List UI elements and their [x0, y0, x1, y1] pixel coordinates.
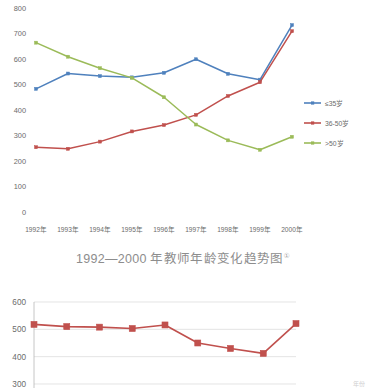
- corner-note-label: 年份: [353, 379, 365, 388]
- chart-caption: 1992—2000 年教师年龄变化趋势图①: [0, 248, 366, 267]
- y-axis-tick-labels: 8007006005004003002001000: [14, 4, 26, 217]
- legend-marker-1: [311, 121, 314, 124]
- x-tick-6: 1998年: [217, 225, 239, 234]
- chart-bottom-svg: 600500400300: [0, 292, 366, 388]
- y-tick-600: 600: [12, 298, 26, 307]
- legend-marker-2: [311, 141, 314, 144]
- data-point-0-0: [35, 87, 38, 90]
- y-tick-400: 400: [12, 353, 26, 362]
- data-point-2-5: [195, 123, 198, 126]
- data-point-0-2: [99, 75, 102, 78]
- data-point-0-0: [31, 321, 37, 327]
- x-tick-5: 1997年: [185, 225, 207, 234]
- y-tick-100: 100: [14, 182, 26, 191]
- data-point-0-6: [228, 345, 234, 351]
- x-tick-8: 2000年: [281, 225, 303, 234]
- chart-top-svg: 8007006005004003002001000 1992年1993年1994…: [0, 0, 366, 245]
- caption-text: 1992—2000 年教师年龄变化趋势图: [76, 252, 284, 266]
- y-tick-0: 0: [22, 208, 26, 217]
- data-point-0-5: [195, 340, 201, 346]
- data-point-0-5: [195, 58, 198, 61]
- y-axis-tick-labels: 600500400300: [12, 298, 26, 388]
- x-tick-1: 1993年: [57, 225, 79, 234]
- series-line-0: [36, 25, 292, 89]
- data-point-1-0: [35, 146, 38, 149]
- data-point-0-6: [227, 72, 230, 75]
- y-tick-500: 500: [12, 325, 26, 334]
- x-tick-4: 1996年: [153, 225, 175, 234]
- data-point-0-4: [163, 71, 166, 74]
- x-tick-0: 1992年: [25, 225, 47, 234]
- gridlines: [34, 302, 296, 388]
- data-point-2-6: [227, 139, 230, 142]
- y-tick-800: 800: [14, 4, 26, 13]
- data-point-1-2: [99, 140, 102, 143]
- legend-label-2: >50岁: [325, 139, 344, 148]
- data-point-2-7: [259, 148, 262, 151]
- data-point-2-3: [131, 76, 134, 79]
- data-point-0-4: [162, 322, 168, 328]
- series-line-1: [36, 31, 292, 149]
- x-axis-category-labels: 1992年1993年1994年1995年1996年1997年1998年1999年…: [25, 225, 303, 234]
- y-tick-600: 600: [14, 55, 26, 64]
- chart-series-group: [31, 321, 299, 357]
- y-tick-500: 500: [14, 80, 26, 89]
- data-point-1-8: [291, 30, 294, 33]
- data-point-1-3: [131, 130, 134, 133]
- chart-legend: ≤35岁36-50岁>50岁: [304, 99, 349, 148]
- y-tick-300: 300: [12, 380, 26, 388]
- data-point-1-5: [195, 113, 198, 116]
- data-point-0-8: [293, 321, 299, 327]
- legend-marker-0: [311, 101, 314, 104]
- data-point-1-6: [227, 94, 230, 97]
- data-point-0-1: [64, 324, 70, 330]
- data-point-1-7: [259, 81, 262, 84]
- data-point-2-2: [99, 67, 102, 70]
- y-tick-200: 200: [14, 157, 26, 166]
- data-point-1-1: [67, 147, 70, 150]
- data-point-2-4: [163, 96, 166, 99]
- data-point-0-8: [291, 24, 294, 27]
- x-tick-2: 1994年: [89, 225, 111, 234]
- y-tick-300: 300: [14, 131, 26, 140]
- chart-series-group: [35, 24, 294, 152]
- data-point-0-1: [67, 72, 70, 75]
- data-point-2-8: [291, 135, 294, 138]
- y-tick-700: 700: [14, 29, 26, 38]
- data-point-0-2: [97, 324, 103, 330]
- data-point-2-0: [35, 41, 38, 44]
- data-point-2-1: [67, 55, 70, 58]
- caption-footnote-marker: ①: [284, 252, 291, 259]
- legend-label-0: ≤35岁: [325, 99, 343, 108]
- y-tick-400: 400: [14, 106, 26, 115]
- data-point-0-7: [260, 350, 266, 356]
- secondary-trend-chart: 600500400300 年份: [0, 292, 366, 388]
- legend-label-1: 36-50岁: [325, 119, 349, 128]
- data-point-1-4: [163, 124, 166, 127]
- data-point-0-3: [129, 326, 135, 332]
- teacher-age-trend-chart: 8007006005004003002001000 1992年1993年1994…: [0, 0, 366, 245]
- x-tick-3: 1995年: [121, 225, 143, 234]
- x-tick-7: 1999年: [249, 225, 271, 234]
